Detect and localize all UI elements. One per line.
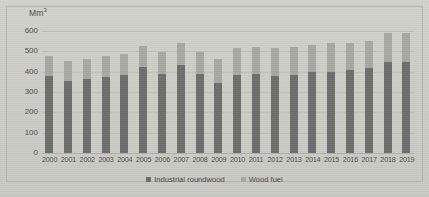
bar-column-2012[interactable] <box>268 31 283 153</box>
bar-segment-industrial-roundwood[interactable] <box>271 76 279 153</box>
bar-stack <box>384 33 392 153</box>
bar-segment-wood-fuel[interactable] <box>102 56 110 77</box>
bar-stack <box>120 54 128 153</box>
bar-stack <box>102 56 110 153</box>
bar-stack <box>252 47 260 153</box>
bar-column-2000[interactable] <box>42 31 57 153</box>
x-axis-label-2007: 2007 <box>174 155 189 167</box>
bar-segment-industrial-roundwood[interactable] <box>346 70 354 153</box>
bar-column-2019[interactable] <box>399 31 414 153</box>
bar-column-2014[interactable] <box>305 31 320 153</box>
bar-column-2003[interactable] <box>98 31 113 153</box>
bar-segment-wood-fuel[interactable] <box>271 48 279 76</box>
bar-column-2001[interactable] <box>61 31 76 153</box>
bar-segment-wood-fuel[interactable] <box>158 52 166 74</box>
bar-segment-wood-fuel[interactable] <box>64 61 72 81</box>
x-axis-label-2014: 2014 <box>305 155 320 167</box>
x-axis-label-2004: 2004 <box>117 155 132 167</box>
bar-segment-wood-fuel[interactable] <box>139 46 147 67</box>
bar-segment-industrial-roundwood[interactable] <box>402 62 410 154</box>
bar-segment-industrial-roundwood[interactable] <box>308 72 316 153</box>
bar-segment-industrial-roundwood[interactable] <box>120 75 128 153</box>
bar-column-2004[interactable] <box>117 31 132 153</box>
y-axis-tick-300: 300 <box>12 88 38 96</box>
bar-segment-industrial-roundwood[interactable] <box>102 77 110 153</box>
bar-column-2007[interactable] <box>174 31 189 153</box>
bar-column-2010[interactable] <box>230 31 245 153</box>
x-axis-label-2018: 2018 <box>380 155 395 167</box>
bar-column-2016[interactable] <box>343 31 358 153</box>
bar-stack <box>233 48 241 153</box>
bar-segment-wood-fuel[interactable] <box>45 56 53 75</box>
legend-item[interactable]: Industrial roundwood <box>146 175 225 184</box>
bar-segment-industrial-roundwood[interactable] <box>139 67 147 153</box>
bar-stack <box>365 41 373 153</box>
x-axis-label-2005: 2005 <box>136 155 151 167</box>
bar-stack <box>64 61 72 154</box>
bar-segment-wood-fuel[interactable] <box>346 43 354 70</box>
bar-segment-wood-fuel[interactable] <box>233 48 241 75</box>
bar-column-2005[interactable] <box>136 31 151 153</box>
legend-item[interactable]: Wood fuel <box>241 175 283 184</box>
bar-column-2009[interactable] <box>211 31 226 153</box>
bar-segment-wood-fuel[interactable] <box>196 52 204 75</box>
bar-segment-industrial-roundwood[interactable] <box>83 79 91 153</box>
bar-column-2002[interactable] <box>80 31 95 153</box>
bar-segment-wood-fuel[interactable] <box>384 33 392 61</box>
x-axis-label-2016: 2016 <box>343 155 358 167</box>
x-axis-label-2012: 2012 <box>268 155 283 167</box>
x-axis-label-2002: 2002 <box>80 155 95 167</box>
legend-label: Industrial roundwood <box>154 175 225 184</box>
bar-column-2006[interactable] <box>155 31 170 153</box>
y-axis-tick-100: 100 <box>12 129 38 137</box>
y-axis-unit-text: Mm <box>29 8 44 18</box>
x-axis-label-2017: 2017 <box>362 155 377 167</box>
bar-segment-industrial-roundwood[interactable] <box>214 83 222 153</box>
chart-legend: Industrial roundwoodWood fuel <box>0 172 429 186</box>
bar-segment-industrial-roundwood[interactable] <box>252 74 260 153</box>
bar-segment-wood-fuel[interactable] <box>308 45 316 72</box>
bar-column-2017[interactable] <box>362 31 377 153</box>
bar-segment-industrial-roundwood[interactable] <box>45 76 53 153</box>
x-axis-line <box>42 153 414 154</box>
bar-column-2015[interactable] <box>324 31 339 153</box>
y-axis-tick-200: 200 <box>12 108 38 116</box>
bar-segment-industrial-roundwood[interactable] <box>290 75 298 153</box>
bar-segment-wood-fuel[interactable] <box>120 54 128 75</box>
bar-segment-wood-fuel[interactable] <box>365 41 373 68</box>
bar-segment-wood-fuel[interactable] <box>402 33 410 61</box>
bar-segment-wood-fuel[interactable] <box>83 59 91 80</box>
y-axis-tick-labels: 0100200300400500600 <box>12 31 38 153</box>
x-axis-label-2001: 2001 <box>61 155 76 167</box>
bar-segment-industrial-roundwood[interactable] <box>233 75 241 153</box>
bar-segment-wood-fuel[interactable] <box>327 43 335 71</box>
bar-column-2018[interactable] <box>380 31 395 153</box>
bar-stack <box>177 43 185 153</box>
bar-segment-wood-fuel[interactable] <box>252 47 260 73</box>
bar-segment-industrial-roundwood[interactable] <box>384 62 392 153</box>
legend-swatch-icon <box>241 177 246 182</box>
y-axis-tick-0: 0 <box>12 149 38 157</box>
y-axis-tick-500: 500 <box>12 47 38 55</box>
x-axis-label-2006: 2006 <box>155 155 170 167</box>
x-axis-label-2009: 2009 <box>211 155 226 167</box>
bar-segment-industrial-roundwood[interactable] <box>64 81 72 153</box>
bar-segment-industrial-roundwood[interactable] <box>365 68 373 153</box>
x-axis-tick-labels: 2000200120022003200420052006200720082009… <box>42 155 414 167</box>
x-axis-label-2010: 2010 <box>230 155 245 167</box>
legend-label: Wood fuel <box>249 175 283 184</box>
bar-segment-wood-fuel[interactable] <box>290 47 298 75</box>
bar-segment-industrial-roundwood[interactable] <box>196 74 204 153</box>
bar-stack <box>327 43 335 153</box>
bar-segment-industrial-roundwood[interactable] <box>158 74 166 153</box>
bar-column-2011[interactable] <box>249 31 264 153</box>
bar-stack <box>402 33 410 153</box>
legend-swatch-icon <box>146 177 151 182</box>
bar-segment-wood-fuel[interactable] <box>177 43 185 65</box>
bar-column-2008[interactable] <box>192 31 207 153</box>
bar-column-2013[interactable] <box>286 31 301 153</box>
bar-segment-wood-fuel[interactable] <box>214 59 222 83</box>
bar-segment-industrial-roundwood[interactable] <box>327 72 335 153</box>
x-axis-label-2008: 2008 <box>192 155 207 167</box>
bar-segment-industrial-roundwood[interactable] <box>177 65 185 153</box>
